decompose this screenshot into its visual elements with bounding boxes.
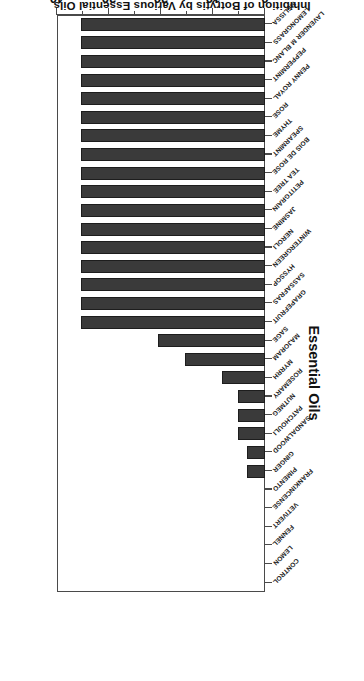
value-tick-major <box>264 8 265 15</box>
bar <box>81 167 265 180</box>
category-tick <box>265 172 272 173</box>
category-tick <box>265 284 272 285</box>
bar <box>81 148 265 161</box>
category-tick <box>265 265 272 266</box>
category-tick <box>265 321 272 322</box>
bar <box>81 204 265 217</box>
value-tick-label: 0 <box>261 0 268 6</box>
bar <box>185 353 265 366</box>
value-tick-major <box>56 8 57 15</box>
bar <box>81 241 265 254</box>
bar <box>81 18 265 31</box>
bar <box>81 129 265 142</box>
category-tick <box>265 377 272 378</box>
category-tick <box>265 433 272 434</box>
value-tick-major <box>160 8 161 15</box>
category-tick <box>265 488 272 489</box>
bar <box>81 278 265 291</box>
category-tick-label: PENNY ROYAL <box>272 62 311 101</box>
bar <box>81 92 265 105</box>
value-tick-label: 10 <box>206 0 220 6</box>
category-tick <box>265 544 272 545</box>
category-tick <box>265 42 272 43</box>
value-tick-minor <box>238 11 239 15</box>
category-axis: MELISSALEMONGRASSLAVENDER M BLANCPEPPERM… <box>265 15 279 592</box>
value-tick-label: 40 <box>50 0 64 6</box>
value-tick-major <box>212 8 213 15</box>
category-tick <box>265 563 272 564</box>
category-tick <box>265 228 272 229</box>
value-tick-label: 30 <box>102 0 116 6</box>
category-tick <box>265 470 272 471</box>
bar <box>158 334 265 347</box>
value-axis-line <box>57 14 265 15</box>
bar <box>238 427 265 440</box>
bar <box>81 297 265 310</box>
bar <box>81 185 265 198</box>
bar <box>81 111 265 124</box>
category-tick <box>265 191 272 192</box>
bar <box>222 371 265 384</box>
category-tick <box>265 98 272 99</box>
category-axis-title: Essential Oils <box>306 313 322 433</box>
bar <box>81 316 265 329</box>
bar <box>238 390 265 403</box>
bar <box>247 465 265 478</box>
bar <box>81 74 265 87</box>
bar <box>81 36 265 49</box>
value-tick-minor <box>82 11 83 15</box>
bar <box>238 409 265 422</box>
category-tick <box>265 358 272 359</box>
value-tick-major <box>108 8 109 15</box>
value-tick-label: 20 <box>154 0 168 6</box>
bar <box>81 223 265 236</box>
category-tick <box>265 395 272 396</box>
bar <box>81 260 265 273</box>
category-tick <box>265 116 272 117</box>
bar <box>81 55 265 68</box>
value-tick-minor <box>134 11 135 15</box>
category-tick <box>265 209 272 210</box>
category-tick <box>265 23 272 24</box>
category-tick <box>265 451 272 452</box>
category-tick <box>265 246 272 247</box>
category-tick <box>265 414 272 415</box>
value-axis: 010203040 <box>57 0 265 15</box>
category-tick <box>265 135 272 136</box>
category-tick <box>265 302 272 303</box>
category-tick <box>265 79 272 80</box>
value-tick-minor <box>186 11 187 15</box>
chart-figure: Inhibition of Botrytis by Various Essent… <box>0 0 364 681</box>
category-tick <box>265 507 272 508</box>
category-tick <box>265 582 272 583</box>
bar <box>247 446 265 459</box>
